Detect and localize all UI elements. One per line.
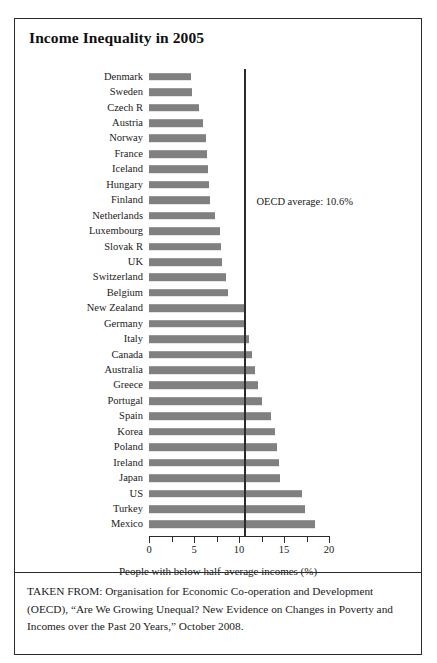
bar-category-label: Netherlands [92,210,143,221]
bar-row: Netherlands [149,208,329,223]
bar [149,166,208,174]
bar [149,320,246,328]
oecd-average-label: OECD average: 10.6% [256,196,353,207]
bar [149,150,207,158]
plot-region: DenmarkSwedenCzech RAustriaNorwayFranceI… [15,57,421,557]
bar-row: Slovak R [149,239,329,254]
bar-category-label: Canada [112,349,144,360]
bar-row: Australia [149,362,329,377]
bar-row: Greece [149,378,329,393]
bar [149,227,220,235]
bar-category-label: UK [128,257,143,268]
bar-category-label: Italy [124,334,143,345]
bar-category-label: Switzerland [93,272,143,283]
x-axis-minor-tick [217,537,218,542]
bar-category-label: Ireland [113,457,143,468]
bar [149,243,221,251]
x-axis-minor-tick [262,537,263,542]
bar-row: Luxembourg [149,223,329,238]
bar-row: Iceland [149,162,329,177]
bar-category-label: Korea [117,427,143,438]
x-axis-minor-tick [172,537,173,542]
bar-category-label: Hungary [106,180,143,191]
bar-row: Mexico [149,517,329,532]
bar [149,351,252,359]
bar-row: Korea [149,424,329,439]
bar-row: Switzerland [149,270,329,285]
chart-title: Income Inequality in 2005 [29,29,204,47]
bar-row: Sweden [149,84,329,99]
bar-category-label: Australia [105,365,144,376]
caption-divider [15,572,421,573]
x-axis-tick-label: 15 [279,544,290,555]
x-axis-label: People with below half-average incomes (… [15,565,421,577]
bar-category-label: Czech R [107,102,143,113]
x-axis-major-tick [284,537,285,543]
bar [149,366,255,374]
bar [149,490,302,498]
bar [149,521,315,529]
bar-category-label: Iceland [112,164,143,175]
x-axis-major-tick [194,537,195,543]
bar-category-label: Germany [104,318,143,329]
bar [149,459,279,467]
bar-row: Poland [149,440,329,455]
bar-row: France [149,146,329,161]
bar-row: Spain [149,409,329,424]
bar [149,382,258,390]
bar [149,104,199,112]
bar [149,258,222,266]
bar-category-label: Poland [114,442,143,453]
bar-category-label: Denmark [104,71,143,82]
bar-row: UK [149,254,329,269]
bar [149,335,249,343]
bar-category-label: Turkey [113,504,143,515]
source-caption: TAKEN FROM: Organisation for Economic Co… [27,583,407,636]
bar-category-label: Japan [119,473,143,484]
bar [149,428,275,436]
bar [149,196,210,204]
bar [149,474,280,482]
bar [149,135,206,143]
bar-row: Belgium [149,285,329,300]
bar-row: Japan [149,470,329,485]
bar [149,505,305,513]
bar-row: Hungary [149,177,329,192]
x-axis-major-tick [149,537,150,543]
bar-row: Norway [149,131,329,146]
bar-row: Portugal [149,393,329,408]
bar [149,304,244,312]
bar-category-label: Finland [111,195,143,206]
bar-category-label: New Zealand [87,303,143,314]
bar-category-label: Mexico [111,519,143,530]
x-axis-tick-label: 0 [146,544,151,555]
x-axis-major-tick [239,537,240,543]
bar-row: Italy [149,331,329,346]
bar-row: New Zealand [149,301,329,316]
bar-category-label: Portugal [107,396,143,407]
bar-category-label: Slovak R [104,241,143,252]
bar-category-label: Austria [112,118,143,129]
bar-row: Austria [149,115,329,130]
bar-category-label: Spain [119,411,143,422]
bar-row: US [149,486,329,501]
bar-category-label: Luxembourg [89,226,143,237]
figure-container: Income Inequality in 2005 DenmarkSwedenC… [14,18,422,655]
x-axis-minor-tick [307,537,308,542]
bar [149,289,228,297]
x-axis-major-tick [329,537,330,543]
bar-category-label: Belgium [107,288,143,299]
bar-row: Czech R [149,100,329,115]
bar-category-label: France [114,149,143,160]
bar-row: Turkey [149,501,329,516]
bar-row: Germany [149,316,329,331]
plot-area: DenmarkSwedenCzech RAustriaNorwayFranceI… [149,69,329,536]
bar [149,119,203,127]
bar [149,413,271,421]
bar-category-label: Sweden [110,87,143,98]
bar [149,212,215,220]
bar-category-label: Norway [109,133,143,144]
bar [149,73,191,81]
bar [149,181,209,189]
x-axis-tick-label: 20 [324,544,335,555]
